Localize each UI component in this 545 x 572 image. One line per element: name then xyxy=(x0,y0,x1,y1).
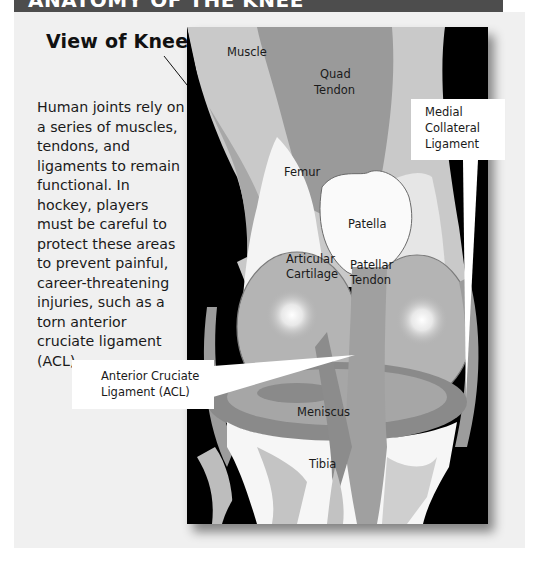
acl-callout-box: Anterior Cruciate Ligament (ACL) xyxy=(72,360,214,409)
acl-callout-pointer xyxy=(0,0,545,572)
acl-callout-line1: Anterior Cruciate xyxy=(101,368,199,384)
acl-callout-line2: Ligament (ACL) xyxy=(101,384,190,400)
